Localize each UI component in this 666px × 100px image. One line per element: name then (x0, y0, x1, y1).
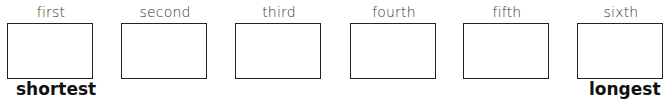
slot-fifth: fifth (463, 0, 551, 100)
answer-box[interactable] (577, 23, 663, 79)
slot-label: fifth (463, 4, 551, 20)
slot-label: third (235, 4, 323, 20)
slot-second: second (121, 0, 209, 100)
answer-box[interactable] (7, 23, 93, 79)
slot-label: second (121, 4, 209, 20)
answer-box[interactable] (121, 23, 207, 79)
answer-box[interactable] (235, 23, 321, 79)
slot-label: sixth (577, 4, 665, 20)
longest-label: longest (589, 79, 661, 99)
slot-fourth: fourth (350, 0, 438, 100)
slot-third: third (235, 0, 323, 100)
slot-label: first (7, 4, 95, 20)
shortest-label: shortest (16, 79, 96, 99)
answer-box[interactable] (350, 23, 436, 79)
answer-box[interactable] (463, 23, 549, 79)
slot-label: fourth (350, 4, 438, 20)
